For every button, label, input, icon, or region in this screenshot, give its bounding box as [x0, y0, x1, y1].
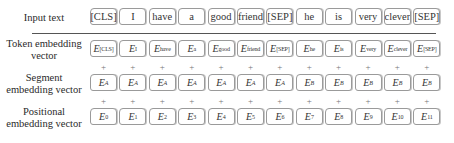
segment-embedding-cell: EB	[355, 74, 382, 91]
input-token-cell: is	[325, 8, 352, 25]
positional-embedding-label: Positional embedding vector	[0, 106, 88, 130]
segment-embedding-cell: EA	[266, 74, 293, 91]
segment-embedding-cell: EB	[325, 74, 352, 91]
embedding-subscript: [SEP]	[276, 46, 289, 52]
embedding-subscript: A	[134, 80, 137, 86]
segment-embedding-cell: EA	[208, 74, 235, 91]
plus-operator: +	[237, 97, 264, 106]
plus-operator: +	[325, 97, 352, 106]
positional-embedding-cell: E9	[355, 108, 382, 125]
plus-operator: +	[413, 97, 440, 106]
plus-operator: +	[296, 97, 323, 106]
segment-embedding-label-line2: embedding vector	[0, 84, 88, 96]
token-embedding-cells: E[CLS]EIEhaveEaEgoodEfriendE[SEP]EheEisE…	[90, 40, 443, 57]
plus-operator: +	[384, 63, 411, 72]
embedding-subscript: have	[160, 46, 171, 52]
input-token-cell: very	[355, 8, 382, 25]
token-embedding-cell: E[CLS]	[90, 40, 117, 57]
plus-operator: +	[237, 63, 264, 72]
positional-embedding-cell: E0	[90, 108, 117, 125]
segment-embedding-cell: EB	[413, 74, 440, 91]
input-token-cell: clever	[384, 8, 411, 25]
input-text-label: Input text	[0, 12, 88, 24]
embedding-subscript: 5	[252, 114, 255, 120]
token-embedding-cell: Eis	[325, 40, 352, 57]
token-embedding-cell: E[SEP]	[413, 40, 440, 57]
token-embedding-cell: Ehave	[149, 40, 176, 57]
plus-row-1: ++++++++++++	[90, 63, 443, 72]
token-embedding-cell: Every	[355, 40, 382, 57]
segment-embedding-label-line1: Segment	[0, 72, 88, 84]
embedding-subscript: A	[281, 80, 284, 86]
embedding-subscript: B	[369, 80, 372, 86]
input-token-cell: [CLS]	[90, 8, 117, 25]
positional-embedding-label-line1: Positional	[0, 106, 88, 118]
plus-operator: +	[119, 97, 146, 106]
positional-embedding-cell: E8	[325, 108, 352, 125]
token-embedding-label-line2: vector	[0, 50, 88, 62]
embedding-subscript: 1	[135, 114, 138, 120]
embedding-subscript: B	[428, 80, 431, 86]
embedding-subscript: 7	[311, 114, 314, 120]
input-token-cell: friend	[237, 8, 264, 25]
embedding-subscript: B	[311, 80, 314, 86]
segment-embedding-cell: EB	[384, 74, 411, 91]
input-token-cell: a	[178, 8, 205, 25]
embedding-subscript: a	[193, 46, 195, 52]
token-embedding-cell: EI	[119, 40, 146, 57]
segment-embedding-cell: EA	[237, 74, 264, 91]
embedding-subscript: 6	[281, 114, 284, 120]
input-token-cell: [SEP]	[413, 8, 440, 25]
embedding-subscript: B	[340, 80, 343, 86]
embedding-subscript: is	[340, 46, 344, 52]
embedding-subscript: [CLS]	[100, 46, 114, 52]
positional-embedding-cells: E0E1E2E3E4E5E6E7E8E9E10E11	[90, 108, 443, 125]
embedding-subscript: friend	[247, 46, 260, 52]
positional-embedding-cell: E4	[208, 108, 235, 125]
plus-operator: +	[266, 97, 293, 106]
token-embedding-cell: Efriend	[237, 40, 264, 57]
plus-operator: +	[355, 63, 382, 72]
token-embedding-cell: Ehe	[296, 40, 323, 57]
embedding-subscript: 0	[105, 114, 108, 120]
input-token-cell: he	[296, 8, 323, 25]
segment-embedding-label: Segment embedding vector	[0, 72, 88, 96]
plus-operator: +	[90, 63, 117, 72]
positional-embedding-cell: E1	[119, 108, 146, 125]
input-token-cells: [CLS]Ihaveagoodfriend[SEP]heisveryclever…	[90, 8, 443, 25]
token-embedding-cell: Ea	[178, 40, 205, 57]
input-token-cell: I	[119, 8, 146, 25]
segment-embedding-cell: EA	[178, 74, 205, 91]
embedding-subscript: 2	[164, 114, 167, 120]
plus-operator: +	[208, 97, 235, 106]
segment-embedding-cell: EA	[90, 74, 117, 91]
token-embedding-cell: Egood	[208, 40, 235, 57]
plus-row-2: ++++++++++++	[90, 97, 443, 106]
plus-operator: +	[90, 97, 117, 106]
plus-operator: +	[413, 63, 440, 72]
plus-operator: +	[178, 63, 205, 72]
segment-embedding-cells: EAEAEAEAEAEAEAEBEBEBEBEB	[90, 74, 443, 91]
embedding-subscript: A	[105, 80, 108, 86]
embedding-subscript: 9	[370, 114, 373, 120]
embedding-subscript: A	[222, 80, 225, 86]
embedding-subscript: 11	[427, 114, 432, 120]
plus-operator: +	[119, 63, 146, 72]
positional-embedding-cell: E5	[237, 108, 264, 125]
input-token-cell: have	[149, 8, 176, 25]
embedding-subscript: I	[135, 46, 137, 52]
token-embedding-cell: E[SEP]	[266, 40, 293, 57]
plus-operator: +	[178, 97, 205, 106]
embedding-subscript: A	[164, 80, 167, 86]
embedding-subscript: 4	[223, 114, 226, 120]
positional-embedding-cell: E2	[149, 108, 176, 125]
plus-operator: +	[325, 63, 352, 72]
embedding-subscript: very	[366, 46, 376, 52]
plus-operator: +	[266, 63, 293, 72]
embedding-subscript: A	[193, 80, 196, 86]
segment-embedding-cell: EA	[119, 74, 146, 91]
plus-operator: +	[149, 97, 176, 106]
embedding-subscript: he	[310, 46, 315, 52]
segment-embedding-cell: EA	[149, 74, 176, 91]
positional-embedding-cell: E6	[266, 108, 293, 125]
